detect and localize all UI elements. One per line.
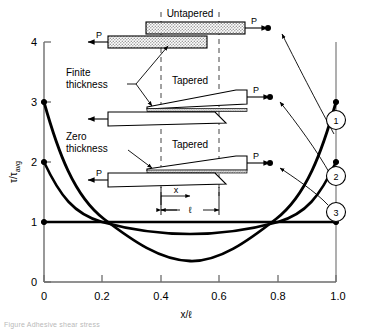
tapered-zero-upper-adherend — [147, 156, 247, 171]
y-tick-label-1: 1 — [31, 216, 37, 228]
finite-thickness-leader-down — [136, 84, 152, 106]
curve-2-left-endpoint — [41, 159, 46, 164]
callouts: 1 2 3 — [265, 25, 346, 222]
y-axis-title: τ/τavg — [8, 161, 22, 183]
x-axis-title: x/ℓ — [180, 309, 192, 320]
svg-text:τ/τavg: τ/τavg — [8, 161, 22, 183]
tapered-zero-load-label-left: P — [96, 168, 102, 178]
finite-thickness-label-line2: thickness — [66, 79, 108, 90]
tapered-zero-lower-adherend — [108, 173, 226, 187]
callout-label-3: 3 — [333, 208, 338, 218]
x-tick-label-3: 0.6 — [211, 290, 226, 302]
x-tick-label-4: 0.8 — [270, 290, 285, 302]
dimension-lines: x ℓ — [161, 185, 219, 215]
untapered-load-label-right: P — [251, 16, 257, 26]
tapered-zero-load-label-right: P — [253, 151, 259, 161]
zero-thickness-label-line1: Zero — [66, 131, 87, 142]
finite-thickness-label-line1: Finite — [66, 67, 91, 78]
y-tick-label-4: 4 — [31, 36, 37, 48]
diagram-tapered-finite: Tapered P Finite thickness — [66, 46, 270, 126]
diagram-tapered-finite-title: Tapered — [172, 75, 208, 86]
y-tick-label-0: 0 — [31, 276, 37, 288]
tapered-finite-upper-adherend — [147, 90, 247, 109]
x-tick-label-1: 0.2 — [94, 290, 109, 302]
callout-1-anchor-dot — [265, 25, 271, 31]
x-tick-label-5: 1.0 — [330, 290, 345, 302]
curve-2-right-endpoint — [333, 159, 338, 164]
curve-1-left-endpoint — [41, 99, 46, 104]
zero-thickness-leader — [128, 150, 152, 168]
curve-1-right-endpoint — [333, 99, 338, 104]
y-axis-title-sub: avg — [14, 161, 22, 172]
finite-thickness-leader-up — [127, 46, 168, 84]
diagram-tapered-zero-title: Tapered — [172, 139, 208, 150]
callout-label-2: 2 — [333, 172, 338, 182]
y-tick-label-2: 2 — [31, 156, 37, 168]
x-ticks — [44, 275, 336, 282]
diagram-untapered: Untapered P P — [88, 8, 268, 48]
y-tick-label-3: 3 — [31, 96, 37, 108]
tapered-finite-lower-adherend — [108, 112, 226, 126]
callout-2-anchor-dot — [267, 94, 273, 100]
y-axis-title-main: τ/τ — [8, 172, 19, 183]
callout-label-1: 1 — [333, 116, 338, 126]
figure-container: 0 1 2 3 4 0 0.2 0.4 0.6 0.8 1.0 x/ℓ τ/τa… — [0, 0, 366, 335]
l-dimension-label: ℓ — [189, 205, 193, 215]
callout-3-anchor-dot — [267, 160, 273, 166]
zero-thickness-label-line2: thickness — [66, 143, 108, 154]
shear-stress-figure: 0 1 2 3 4 0 0.2 0.4 0.6 0.8 1.0 x/ℓ τ/τa… — [0, 0, 366, 335]
untapered-upper-adherend — [146, 22, 245, 34]
tapered-finite-load-label-right: P — [253, 85, 259, 95]
curve-3-left-endpoint — [41, 219, 46, 224]
diagram-tapered-zero: Tapered P P Zero thickness — [66, 131, 270, 187]
figure-caption: Figure Adhesive shear stress — [4, 321, 100, 328]
x-dimension-label: x — [174, 185, 179, 195]
tapered-finite-bondline — [147, 109, 247, 112]
untapered-lower-adherend — [108, 36, 207, 48]
x-tick-label-2: 0.4 — [153, 290, 168, 302]
untapered-load-label-left: P — [96, 30, 102, 40]
diagram-untapered-title: Untapered — [167, 8, 214, 19]
x-tick-label-0: 0 — [41, 290, 47, 302]
